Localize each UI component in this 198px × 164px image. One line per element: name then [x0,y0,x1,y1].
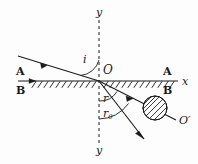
y-axis-top-label: y [96,7,102,18]
angle-label-incidence: i [83,54,87,65]
angle-label-refraction-critical: r0 [103,108,113,121]
y-axis-bottom-label: y [96,145,102,156]
medium-label-lower-left: B [16,85,25,96]
hatched-circle-marker [140,93,170,123]
angle-label-refraction: r [103,93,108,104]
medium-label-upper-left: A [16,66,25,77]
medium-label-upper-right: A [163,66,172,77]
optics-refraction-figure: y y x O A B A B i r r0 O′ [0,0,198,164]
medium-label-lower-right: B [163,85,172,96]
image-point-label: O′ [179,115,191,126]
incident-ray [18,56,99,81]
x-axis-label: x [182,76,188,87]
origin-label: O [103,64,113,76]
figure-canvas [0,0,198,164]
angle-critical-subscript: 0 [108,113,112,121]
